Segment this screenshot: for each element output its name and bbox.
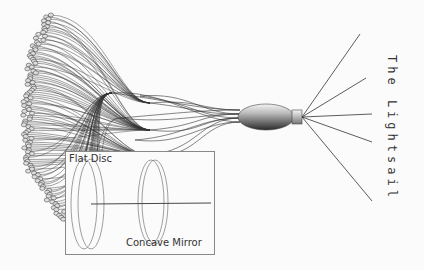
concave-mirror-label: Concave Mirror (126, 237, 202, 248)
disc (27, 102, 32, 106)
disc (22, 109, 27, 113)
disc (51, 196, 56, 200)
disc (29, 136, 34, 140)
tether (46, 17, 150, 103)
disc (30, 80, 35, 84)
disc (32, 175, 37, 179)
disc (48, 13, 53, 17)
flat-disc-label: Flat Disc (69, 153, 112, 164)
sail-rigging (302, 34, 372, 201)
disc (46, 194, 51, 198)
disc (33, 36, 38, 40)
disc (40, 186, 45, 190)
main-tether (112, 93, 240, 110)
diagram-title: The Lightsail (385, 55, 399, 201)
disc (29, 111, 34, 115)
disc (33, 61, 38, 65)
sail-ray (302, 114, 372, 117)
disc (41, 38, 46, 42)
disc (41, 30, 46, 34)
disc (21, 113, 26, 117)
concave-mirror (138, 160, 168, 244)
main-tether (150, 118, 240, 131)
tether (28, 130, 150, 131)
main-tether (135, 118, 240, 140)
main-tether (150, 103, 240, 114)
craft-nose (292, 110, 302, 124)
inset-panel: Flat Disc Concave Mirror (65, 151, 215, 255)
disc (44, 198, 49, 202)
disc (36, 32, 41, 36)
disc (23, 134, 28, 138)
disc (36, 42, 41, 46)
sail-ray (302, 78, 366, 117)
disc (23, 138, 28, 142)
disc (25, 82, 30, 86)
axis-line (91, 203, 211, 204)
sail-ray (302, 34, 360, 117)
disc (54, 208, 59, 212)
disc (33, 71, 38, 75)
disc (21, 100, 26, 104)
disc (27, 107, 32, 111)
disc (26, 169, 31, 173)
disc (25, 67, 30, 71)
tether (49, 19, 151, 103)
craft-body (238, 104, 302, 130)
lightsail-diagram: The Lightsail Flat Disc Concave Mirror (0, 0, 424, 270)
disc (42, 34, 47, 38)
